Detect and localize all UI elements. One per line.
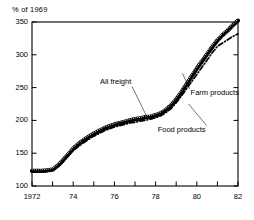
annotation-label: All freight <box>100 77 131 86</box>
x-tick-label: 74 <box>56 192 90 201</box>
y-tick-label: 300 <box>2 50 28 59</box>
x-tick-label: 1972 <box>15 192 49 201</box>
x-tick-label: 80 <box>180 192 214 201</box>
annotation-label: Food products <box>158 125 206 134</box>
plot-area <box>0 0 254 220</box>
freight-index-chart: % of 1969 350300250200150100 19727476788… <box>0 0 254 220</box>
y-tick-label: 350 <box>2 17 28 26</box>
y-tick-label: 250 <box>2 83 28 92</box>
y-tick-label: 100 <box>2 181 28 190</box>
x-tick-label: 76 <box>97 192 131 201</box>
x-tick-label: 78 <box>139 192 173 201</box>
y-tick-label: 200 <box>2 115 28 124</box>
annotation-label: Farm products <box>191 88 239 97</box>
y-tick-label: 150 <box>2 148 28 157</box>
x-tick-label: 82 <box>221 192 254 201</box>
